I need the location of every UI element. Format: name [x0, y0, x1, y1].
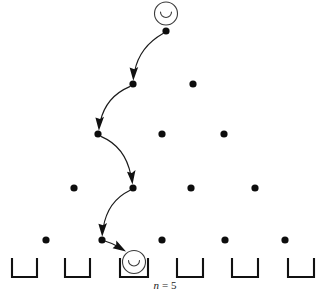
- ball-start: [155, 2, 178, 25]
- peg-r4-c1: [70, 184, 77, 191]
- ball-start-outline: [155, 2, 178, 25]
- caption-equals: =: [162, 279, 168, 291]
- peg-r3-c1: [94, 130, 101, 137]
- peg-r5-c1: [42, 236, 49, 243]
- path-arrow-3-head: [127, 170, 136, 185]
- bin-6: [288, 258, 314, 277]
- peg-r3-c2: [158, 130, 165, 137]
- path-arrow-3-curve: [101, 137, 130, 175]
- path-arrow-1-head: [130, 67, 139, 81]
- path-arrow-2: [95, 87, 129, 131]
- bin-2: [65, 258, 90, 277]
- ball-landed-outline: [123, 251, 146, 274]
- path-arrow-4-curve: [103, 191, 130, 228]
- figure-caption: n=5: [153, 279, 177, 291]
- path-arrow-5-head: [113, 240, 126, 251]
- peg-r1-c1: [162, 27, 169, 34]
- bin-5: [232, 258, 258, 277]
- path-arrow-2-head: [95, 117, 104, 131]
- peg-r5-c2: [98, 236, 105, 243]
- peg-r3-c3: [220, 130, 227, 137]
- peg-r4-c4: [251, 184, 258, 191]
- path-arrow-1: [130, 34, 163, 81]
- ball-path-arrows: [95, 34, 163, 252]
- peg-r4-c3: [187, 184, 194, 191]
- bin-4: [177, 258, 203, 277]
- bin-1: [12, 258, 37, 277]
- path-arrow-2-curve: [100, 87, 129, 122]
- peg-lattice: [42, 27, 288, 243]
- peg-r5-c3: [158, 236, 165, 243]
- path-arrow-3: [101, 137, 135, 185]
- caption-variable: n: [153, 279, 159, 291]
- peg-r2-c2: [189, 80, 196, 87]
- peg-r4-c2: [129, 184, 136, 191]
- path-arrow-1-curve: [135, 34, 163, 72]
- path-arrow-4: [98, 191, 129, 237]
- galton-board-canvas: n=5: [0, 0, 329, 292]
- ball-landed: [123, 251, 146, 274]
- path-arrow-5: [106, 240, 127, 251]
- peg-r2-c1: [129, 80, 136, 87]
- bin-row: [12, 258, 314, 277]
- galton-board-figure: n=5: [0, 0, 329, 292]
- path-arrow-4-head: [98, 223, 107, 237]
- caption-value: 5: [171, 279, 177, 291]
- peg-r5-c4: [221, 236, 228, 243]
- peg-r5-c5: [281, 236, 288, 243]
